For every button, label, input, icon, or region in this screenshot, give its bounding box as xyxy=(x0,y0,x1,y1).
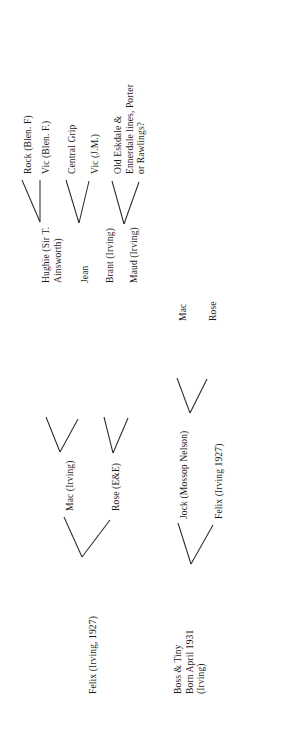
node-vic-blen-f: Vic (Blen. F.) xyxy=(40,121,52,174)
node-label: Rose xyxy=(207,301,218,321)
link-brantmaud-eskdale-right xyxy=(124,182,139,224)
node-label-line-3: (Irving) xyxy=(195,630,207,694)
link-roseee-maud xyxy=(113,418,128,453)
node-vic-jm: Vic (J.M.) xyxy=(89,134,101,174)
link-macirving-hughie xyxy=(46,417,60,452)
node-label: Jock (Mossop Nelson) xyxy=(178,431,189,519)
node-label-line-1: Old Eskdale & xyxy=(112,116,123,174)
node-label-line-2: Born April 1931 xyxy=(184,630,196,694)
node-jean: Jean xyxy=(79,266,91,283)
node-hughie-sir-t-ainsworth: Hughie (Sir T. Ainsworth) xyxy=(40,227,63,283)
link-felixroot-macirving xyxy=(64,517,82,557)
link-jockfelix-mac xyxy=(177,378,190,413)
node-label: Maud (Irving) xyxy=(128,227,139,283)
node-maud-irving: Maud (Irving) xyxy=(128,227,140,283)
node-felix-irving-1927-root: Felix (Irving, 1927) xyxy=(87,616,99,694)
node-label: Central Grip xyxy=(66,125,77,174)
node-label-line-3: or Rawlings? xyxy=(135,84,147,174)
node-mac-irving: Mac (Irving) xyxy=(64,461,76,511)
node-label-line-1: Boss & Tiny xyxy=(172,644,183,694)
node-label: Rose (E&E) xyxy=(110,463,121,511)
node-label-line-1: Hughie (Sir T. xyxy=(40,227,51,283)
node-jock-mossop-nelson: Jock (Mossop Nelson) xyxy=(178,431,190,519)
node-central-grip: Central Grip xyxy=(66,125,78,174)
node-old-eskdale-ennerdale: Old Eskdale & Ennerdale lines, Porter or… xyxy=(112,84,147,174)
node-label: Vic (J.M.) xyxy=(89,134,100,174)
node-label: Vic (Blen. F.) xyxy=(40,121,51,174)
node-label: Rock (Blen. F) xyxy=(22,115,33,174)
node-rock-blen-f: Rock (Blen. F) xyxy=(22,115,34,174)
node-rose: Rose xyxy=(207,301,219,321)
node-label: Mac xyxy=(177,304,188,321)
node-boss-and-tiny-root: Boss & Tiny Born April 1931 (Irving) xyxy=(172,630,207,694)
link-hughie-rock xyxy=(22,180,40,222)
node-label: Brant (Irving) xyxy=(104,228,115,283)
node-label: Mac (Irving) xyxy=(64,461,75,511)
node-brant-irving: Brant (Irving) xyxy=(104,228,116,283)
link-felixroot-roseee xyxy=(82,520,110,557)
node-rose-ee: Rose (E&E) xyxy=(110,463,122,511)
link-jean-centralgrip xyxy=(66,180,79,223)
link-macirving-jean xyxy=(60,419,78,452)
link-roseee-brant xyxy=(104,417,113,453)
link-bosstiny-jock xyxy=(178,523,191,564)
link-brantmaud-eskdale-left xyxy=(112,181,124,224)
link-jean-vicjm xyxy=(79,181,89,223)
node-label-line-2: Ainsworth) xyxy=(52,227,64,283)
node-label: Felix (Irving, 1927) xyxy=(87,616,98,694)
node-label: Jean xyxy=(79,266,90,283)
node-label: Felix (Irving 1927) xyxy=(213,444,224,519)
link-jockfelix-rose xyxy=(190,379,207,413)
node-mac: Mac xyxy=(177,304,189,321)
pedigree-chart: Rock (Blen. F) Vic (Blen. F.) Central Gr… xyxy=(0,0,283,739)
node-felix-irving-1927: Felix (Irving 1927) xyxy=(213,444,225,519)
link-bosstiny-felix1927 xyxy=(191,525,213,564)
node-label-line-2: Ennerdale lines, Porter xyxy=(124,84,136,174)
